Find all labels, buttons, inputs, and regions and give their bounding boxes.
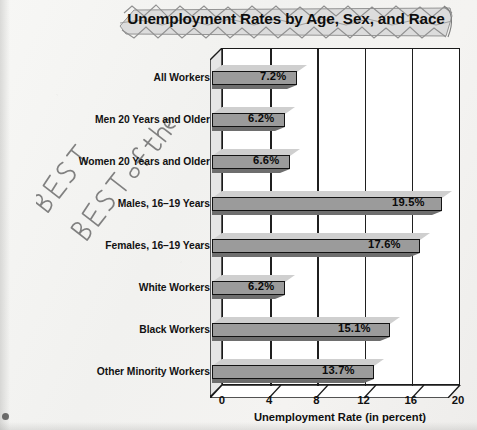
bar-value-label: 17.6% xyxy=(368,238,401,250)
category-label-men-20-plus: Men 20 Years and Older xyxy=(0,114,210,125)
category-label-males-16-19: Males, 16–19 Years xyxy=(0,198,210,209)
category-label-white-workers: White Workers xyxy=(0,282,210,293)
bar-value-label: 13.7% xyxy=(322,364,355,376)
x-tick-0: 0 xyxy=(209,394,235,406)
scan-edge-bottom xyxy=(0,422,477,430)
bar-value-label: 6.6% xyxy=(253,154,279,166)
category-label-column: All Workers Men 20 Years and Older Women… xyxy=(0,48,210,385)
bar-shadow xyxy=(212,211,442,215)
bar-value-label: 7.2% xyxy=(260,70,286,82)
gridline-16 xyxy=(412,49,413,386)
x-tick-4: 4 xyxy=(256,394,282,406)
x-tick-16: 16 xyxy=(398,394,424,406)
plot-area: 7.2% 6.2% 6.6% 19.5% 17.6% xyxy=(222,48,460,385)
x-tick-20: 20 xyxy=(445,394,471,406)
category-label-women-20-plus: Women 20 Years and Older xyxy=(0,156,210,167)
bar-value-label: 6.2% xyxy=(248,280,274,292)
scanned-page: Unemployment Rates by Age, Sex, and Race xyxy=(0,0,477,430)
chart-title-block: Unemployment Rates by Age, Sex, and Race xyxy=(118,4,454,40)
category-label-females-16-19: Females, 16–19 Years xyxy=(0,240,210,251)
page-title: Unemployment Rates by Age, Sex, and Race xyxy=(118,10,454,28)
bar-value-label: 15.1% xyxy=(338,322,371,334)
bar-value-label: 6.2% xyxy=(248,112,274,124)
bar-shadow xyxy=(212,379,374,383)
x-axis-title: Unemployment Rate (in percent) xyxy=(200,411,477,423)
category-label-black-workers: Black Workers xyxy=(0,324,210,335)
category-label-all-workers: All Workers xyxy=(0,72,210,83)
x-tick-12: 12 xyxy=(351,394,377,406)
bar-shadow xyxy=(212,169,290,173)
bar-shadow xyxy=(212,127,285,131)
bar-shadow xyxy=(212,253,420,257)
scan-speck xyxy=(2,413,9,420)
bar-shadow xyxy=(212,295,285,299)
bar-value-label: 19.5% xyxy=(392,196,425,208)
bar-shadow xyxy=(212,337,390,341)
x-axis-ticks: 0 4 8 12 16 20 xyxy=(222,394,460,410)
bar-shadow xyxy=(212,85,297,89)
category-label-other-minority-workers: Other Minority Workers xyxy=(0,366,210,377)
x-tick-8: 8 xyxy=(303,394,329,406)
